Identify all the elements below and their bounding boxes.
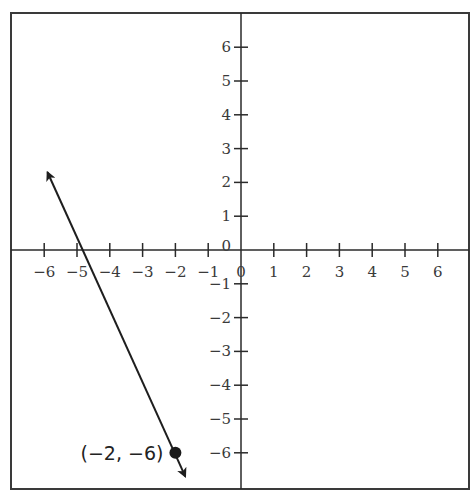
line-with-arrows	[47, 172, 185, 476]
x-tick-label: 2	[302, 263, 312, 281]
x-tick-label: 0	[236, 263, 246, 281]
y-tick-label: −6	[209, 444, 231, 462]
x-tick-label: 6	[433, 263, 443, 281]
x-tick-label: −3	[132, 263, 154, 281]
point-marker	[169, 447, 181, 459]
x-tick-label: −6	[33, 263, 55, 281]
y-tick-label: 2	[221, 173, 231, 191]
x-tick-label: −4	[99, 263, 121, 281]
data-points: (−2, −6)	[80, 442, 181, 464]
x-tick-label: −2	[164, 263, 186, 281]
data-series	[47, 172, 185, 476]
x-tick-label: 1	[269, 263, 279, 281]
y-tick-label: 1	[221, 207, 231, 225]
y-tick-label: 5	[221, 72, 231, 90]
y-tick-label: −4	[209, 376, 231, 394]
y-tick-label: −2	[209, 309, 231, 327]
x-tick-label: 3	[335, 263, 345, 281]
x-tick-label: −5	[66, 263, 88, 281]
point-label: (−2, −6)	[80, 442, 163, 464]
y-tick-label: −5	[209, 410, 231, 428]
y-tick-label: 3	[221, 140, 231, 158]
x-tick-label: 4	[367, 263, 377, 281]
x-tick-label: 5	[400, 263, 410, 281]
y-tick-label: −3	[209, 342, 231, 360]
y-tick-label: 0	[221, 237, 231, 255]
coordinate-plane: −6−5−4−3−2−10123456 −6−5−4−3−2−10123456 …	[0, 0, 472, 497]
y-tick-label: −1	[209, 275, 231, 293]
y-tick-label: 4	[221, 106, 231, 124]
plot-frame	[11, 13, 469, 489]
y-tick-label: 6	[221, 38, 231, 56]
